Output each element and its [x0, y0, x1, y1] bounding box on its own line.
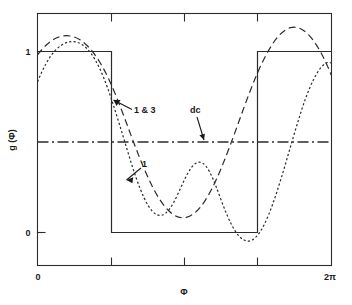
series-fundamental — [38, 27, 332, 218]
x-axis-label: Φ — [180, 287, 188, 297]
figure-container: 1 & 3 1 dc 1 0 g (Φ) 0 2π Φ — [0, 0, 352, 305]
annotation-dc: dc — [190, 105, 205, 140]
y-tick-label-1: 1 — [25, 47, 30, 57]
annotation-1-and-3-label: 1 & 3 — [134, 105, 156, 115]
annotation-1: 1 — [127, 159, 148, 183]
chart-canvas: 1 & 3 1 dc 1 0 g (Φ) 0 2π Φ — [0, 0, 352, 305]
series-fundamental-plus-third — [38, 42, 332, 241]
y-tick-label-0: 0 — [25, 228, 30, 238]
annotation-1-label: 1 — [142, 159, 147, 169]
x-tick-label-2pi: 2π — [324, 272, 336, 282]
annotation-dc-label: dc — [190, 105, 201, 115]
bottom-tick-marks — [112, 258, 258, 266]
y-axis-label: g (Φ) — [7, 129, 17, 150]
x-tick-label-0: 0 — [35, 272, 40, 282]
annotation-1-and-3: 1 & 3 — [114, 100, 156, 115]
top-tick-marks — [112, 14, 258, 22]
